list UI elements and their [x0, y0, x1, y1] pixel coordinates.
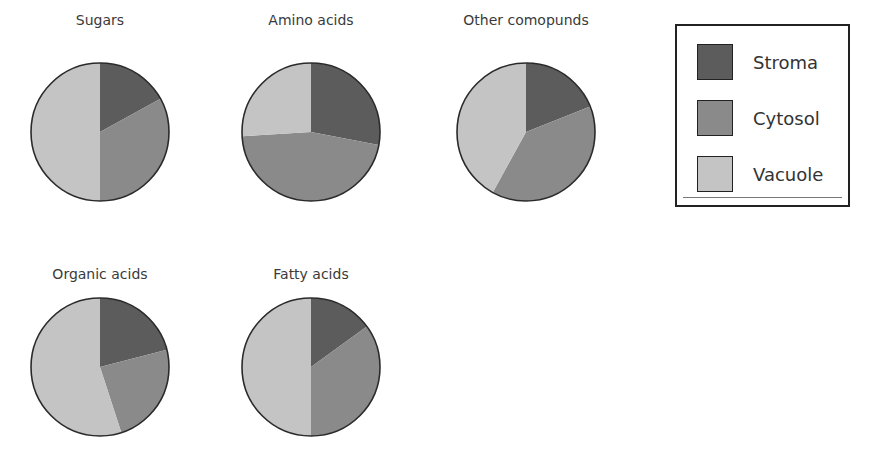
chart-legend: Stroma Cytosol Vacuole [675, 24, 850, 207]
legend-item-cytosol: Cytosol [697, 100, 820, 136]
legend-divider [683, 197, 842, 198]
pie-slice-vacuole [242, 298, 311, 436]
legend-label: Cytosol [753, 108, 820, 129]
legend-label: Stroma [753, 52, 818, 73]
legend-item-vacuole: Vacuole [697, 156, 823, 192]
legend-swatch-stroma [697, 44, 733, 80]
legend-swatch-cytosol [697, 100, 733, 136]
legend-swatch-vacuole [697, 156, 733, 192]
legend-item-stroma: Stroma [697, 44, 818, 80]
legend-label: Vacuole [753, 164, 823, 185]
